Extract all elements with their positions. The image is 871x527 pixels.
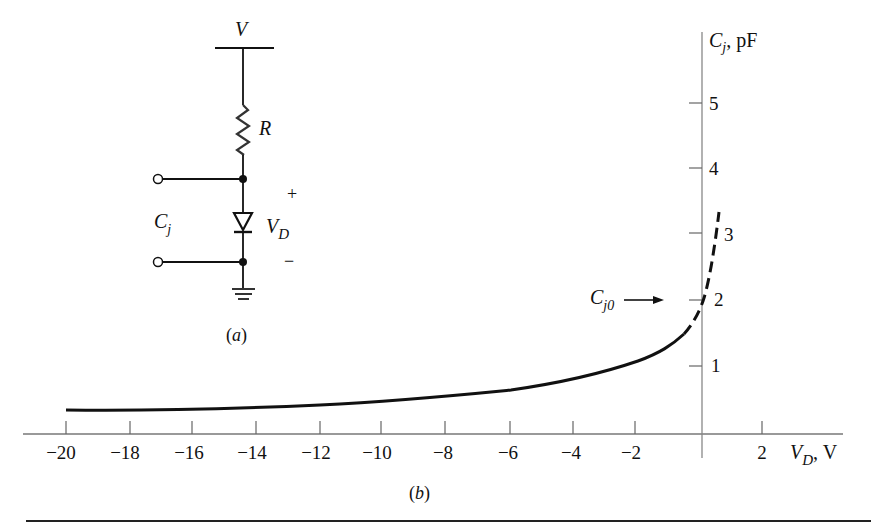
capacitance-curve-solid	[66, 334, 684, 410]
x-tick-label: −10	[362, 442, 392, 463]
terminal-bottom	[154, 258, 163, 267]
y-tick-label: 2	[714, 289, 724, 310]
ground-icon	[232, 289, 255, 299]
y-tick-label: 5	[709, 93, 719, 114]
x-tick-label: −18	[110, 442, 140, 463]
minus-sign: −	[284, 251, 294, 271]
y-axis-title: Cj, pF	[709, 29, 757, 55]
x-tick-label: −4	[561, 442, 582, 463]
x-tick-label: −2	[621, 442, 641, 463]
arrow-right-icon	[653, 296, 664, 304]
x-tick-labels: −20 −18 −16 −14 −12 −10 −8 −6 −4 −2 2	[46, 442, 767, 463]
resistor-icon	[237, 105, 249, 155]
capacitance-plot: −20 −18 −16 −14 −12 −10 −8 −6 −4 −2 2 VD…	[23, 29, 843, 504]
x-tick-label: −12	[301, 442, 331, 463]
x-tick-label: −16	[174, 442, 204, 463]
x-axis-title: VD, V	[790, 441, 838, 468]
supply-voltage-label: V	[235, 18, 250, 40]
x-tick-label: 2	[757, 442, 767, 463]
x-ticks	[66, 421, 762, 434]
plus-sign: +	[287, 184, 297, 204]
diode-voltage-label: VD	[266, 215, 289, 242]
y-tick-label: 3	[724, 224, 734, 245]
x-tick-label: −20	[46, 442, 76, 463]
terminal-top	[154, 175, 163, 184]
x-tick-label: −14	[237, 442, 267, 463]
diode-icon	[234, 213, 252, 230]
cj0-annotation-label: Cj0	[590, 286, 614, 313]
caption-a: (a)	[226, 325, 247, 346]
capacitance-label: Cj	[154, 210, 171, 237]
y-tick-label: 1	[711, 355, 721, 376]
y-tick-label: 4	[709, 158, 719, 179]
x-tick-label: −6	[498, 442, 518, 463]
y-tick-labels: 1 2 3 4 5	[709, 93, 734, 376]
circuit-diagram: V R Cj + VD − (a)	[154, 18, 298, 346]
resistor-label: R	[258, 117, 271, 139]
x-tick-label: −8	[433, 442, 453, 463]
caption-b: (b)	[409, 483, 430, 504]
varactor-figure: V R Cj + VD − (a)	[0, 0, 871, 527]
